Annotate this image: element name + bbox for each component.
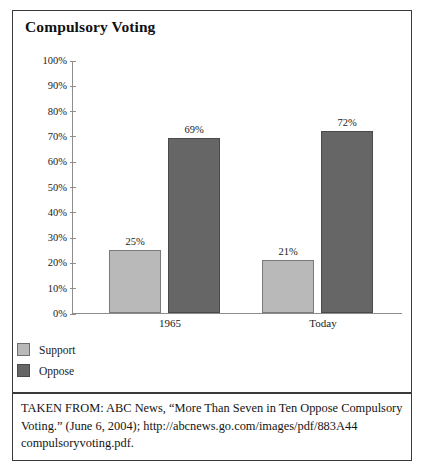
source-note: TAKEN FROM: ABC News, “More Than Seven i…: [21, 400, 403, 453]
y-tick-mark: [70, 238, 76, 239]
source-divider: [13, 392, 411, 394]
legend-label: Support: [39, 344, 75, 356]
y-tick-40: 40%: [13, 207, 79, 219]
legend-swatch-icon: [17, 364, 30, 377]
y-tick-70: 70%: [13, 131, 79, 143]
y-tick-label: 100%: [43, 55, 68, 67]
y-tick-label: 20%: [48, 257, 67, 269]
y-tick-label: 80%: [48, 106, 67, 118]
y-tick-10: 10%: [13, 283, 79, 295]
legend-item-support[interactable]: Support: [17, 339, 75, 360]
y-tick-0: 0%: [13, 308, 79, 320]
y-tick-mark: [70, 136, 76, 137]
legend-label: Oppose: [39, 365, 74, 377]
bar-value-label: 69%: [184, 123, 203, 136]
y-tick-20: 20%: [13, 257, 79, 269]
y-tick-mark: [70, 212, 76, 213]
legend-swatch-icon: [17, 343, 30, 356]
chart-plot-area: 100% 90% 80% 70% 60% 50% 40% 30%: [13, 51, 411, 336]
y-tick-mark: [70, 314, 76, 315]
legend-item-oppose[interactable]: Oppose: [17, 360, 75, 381]
bar-value-label: 25%: [125, 235, 144, 248]
bar-support-today[interactable]: 21%: [262, 260, 314, 313]
y-tick-60: 60%: [13, 156, 79, 168]
y-tick-100: 100%: [13, 55, 79, 67]
x-axis-line: [72, 313, 402, 314]
y-tick-mark: [70, 288, 76, 289]
y-tick-label: 30%: [48, 232, 67, 244]
bar-group-1965: 25% 69%: [95, 60, 245, 313]
y-tick-90: 90%: [13, 80, 79, 92]
y-tick-mark: [70, 187, 76, 188]
y-tick-label: 60%: [48, 156, 67, 168]
y-tick-label: 40%: [48, 207, 67, 219]
y-tick-mark: [70, 86, 76, 87]
y-tick-mark: [70, 263, 76, 264]
bar-oppose-today[interactable]: 72%: [321, 131, 373, 313]
y-tick-50: 50%: [13, 182, 79, 194]
y-tick-label: 90%: [48, 80, 67, 92]
figure-frame: Compulsory Voting 100% 90% 80% 70% 60% 5…: [12, 10, 412, 461]
y-tick-mark: [70, 111, 76, 112]
x-axis-label-today: Today: [248, 317, 398, 329]
bar-value-label: 72%: [337, 116, 356, 129]
y-tick-30: 30%: [13, 232, 79, 244]
y-tick-mark: [70, 61, 76, 62]
y-tick-80: 80%: [13, 106, 79, 118]
bar-support-1965[interactable]: 25%: [109, 250, 161, 313]
bar-oppose-1965[interactable]: 69%: [168, 138, 220, 313]
x-axis-label-1965: 1965: [95, 317, 245, 329]
page-title: Compulsory Voting: [25, 18, 155, 36]
y-tick-mark: [70, 162, 76, 163]
y-tick-label: 50%: [48, 182, 67, 194]
y-tick-label: 0%: [53, 308, 67, 320]
chart-legend: Support Oppose: [17, 339, 75, 381]
bar-group-today: 21% 72%: [248, 60, 398, 313]
bar-value-label: 21%: [278, 245, 297, 258]
y-tick-label: 10%: [48, 283, 67, 295]
y-tick-label: 70%: [48, 131, 67, 143]
